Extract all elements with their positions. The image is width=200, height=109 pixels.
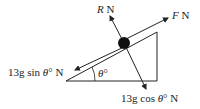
weight-cos-component-arrow [124,43,146,89]
particle [118,37,130,49]
force-label: F N [171,9,189,21]
force-diagram: R N F N 13g sin θ° N θ° 13g cos θ° N [0,0,200,109]
inclined-plane [66,32,157,81]
cos-component-label: 13g cos θ° N [121,92,178,104]
sin-component-label: 13g sin θ° N [8,66,63,78]
force-f-arrow [124,18,168,40]
angle-label: θ° [98,67,108,79]
angle-arc [92,67,95,81]
reaction-label: R N [96,3,114,15]
